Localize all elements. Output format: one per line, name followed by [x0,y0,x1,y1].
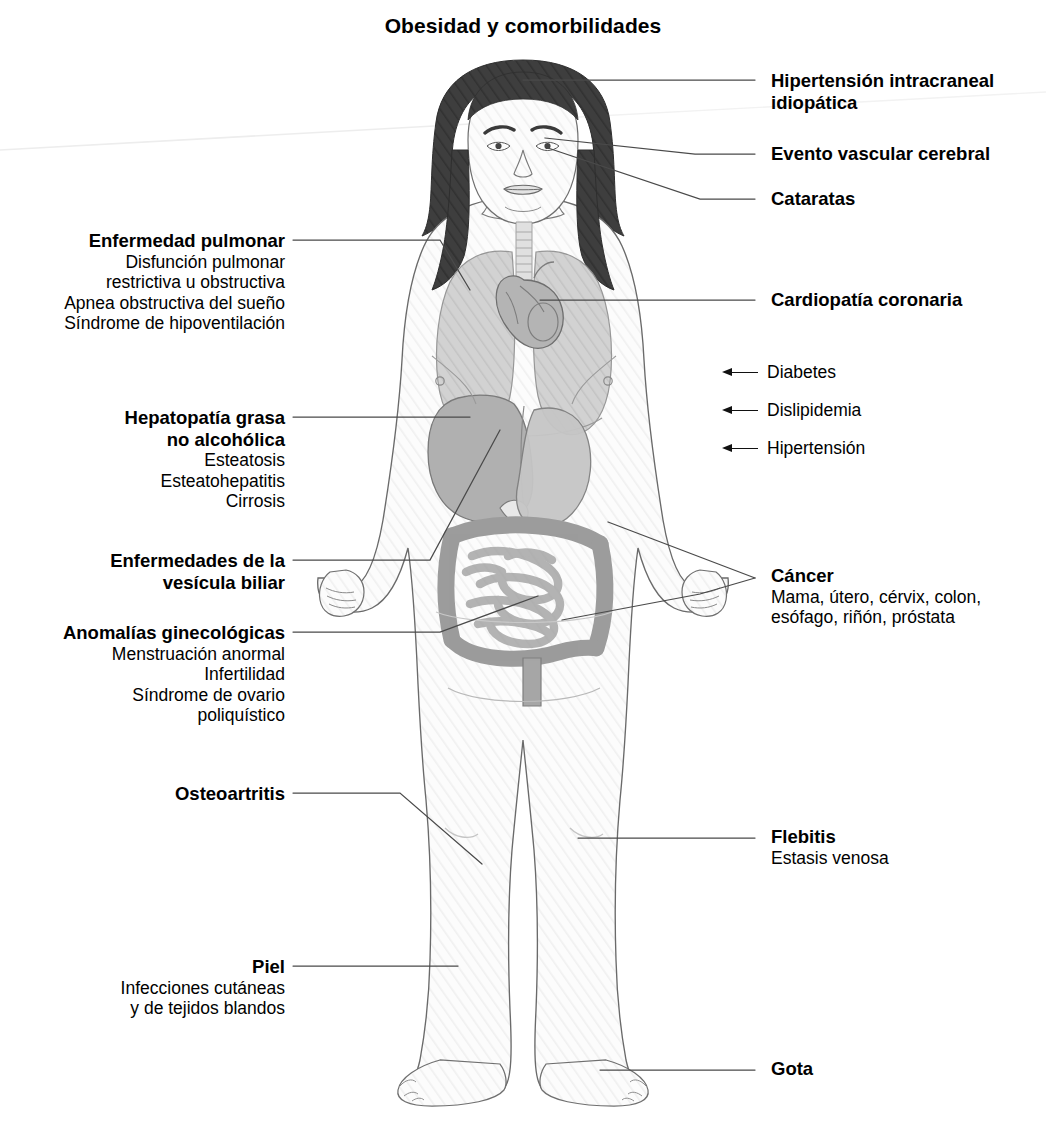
left-arrow-icon [722,443,758,455]
callout-enfermedades-vesicula-biliar[interactable]: Enfermedades de la vesícula biliar [110,550,285,593]
callout-sub-line: Esteatohepatitis [125,471,285,491]
callout-flebitis[interactable]: Flebitis Estasis venosa [771,826,889,868]
callout-diabetes[interactable]: Diabetes [722,362,836,383]
callout-heading-line: no alcohólica [125,429,285,451]
callout-heading-line: Piel [121,956,285,978]
callout-dislipidemia[interactable]: Dislipidemia [722,400,861,421]
callout-cardiopatia-coronaria[interactable]: Cardiopatía coronaria [771,289,962,311]
callout-heading-line: Cataratas [771,188,855,210]
rectum [523,658,541,706]
callout-heading-line: Cardiopatía coronaria [771,289,962,311]
callout-heading-line: Cáncer [771,565,981,587]
callout-sub-line: poliquístico [63,705,285,725]
callout-sub-line: Síndrome de ovario [63,685,285,705]
callout-heading-line: Enfermedad pulmonar [64,230,285,252]
callout-anomalias-ginecologicas[interactable]: Anomalías ginecológicas Menstruación ano… [63,622,285,726]
callout-heading-line: Anomalías ginecológicas [63,622,285,644]
left-arrow-icon [722,367,758,379]
callout-sub-line: Mama, útero, cérvix, colon, [771,587,981,607]
callout-sub-line: esófago, riñón, próstata [771,607,981,627]
callout-heading-line: Gota [771,1058,813,1080]
callout-sub-line: Cirrosis [125,491,285,511]
callout-osteoartritis[interactable]: Osteoartritis [175,783,285,805]
diagram-page: Obesidad y comorbilidades [0,0,1046,1123]
callout-evento-vascular-cerebral[interactable]: Evento vascular cerebral [771,143,990,165]
callout-sub-line: Menstruación anormal [63,644,285,664]
callout-label: Diabetes [767,362,836,383]
callout-heading-line: Enfermedades de la [110,550,285,572]
callout-sub-line: Infertilidad [63,664,285,684]
callout-heading-line: vesícula biliar [110,572,285,594]
foot-right [540,1060,648,1106]
callout-sub-line: Esteatosis [125,450,285,470]
callout-hipertension-intracraneal[interactable]: Hipertensión intracraneal idiopática [771,70,994,113]
foot-left [398,1060,506,1106]
callout-hipertension[interactable]: Hipertensión [722,438,865,459]
pupil-left [495,143,501,149]
callout-heading-line: Hipertensión intracraneal [771,70,994,92]
callout-gota[interactable]: Gota [771,1058,813,1080]
callout-enfermedad-pulmonar[interactable]: Enfermedad pulmonar Disfunción pulmonar … [64,230,285,334]
descending-colon [596,544,605,648]
callout-sub-line: Apnea obstructiva del sueño [64,293,285,313]
callout-sub-line: Síndrome de hipoventilación [64,313,285,333]
callout-label: Hipertensión [767,438,865,459]
callout-piel[interactable]: Piel Infecciones cutáneas y de tejidos b… [121,956,285,1019]
callout-cataratas[interactable]: Cataratas [771,188,855,210]
callout-sub-line: y de tejidos blandos [121,998,285,1018]
callout-heading-line: Evento vascular cerebral [771,143,990,165]
callout-label: Dislipidemia [767,400,861,421]
callout-sub-line: Infecciones cutáneas [121,978,285,998]
callout-sub-line: Estasis venosa [771,848,889,868]
callout-cancer[interactable]: Cáncer Mama, útero, cérvix, colon, esófa… [771,565,981,628]
callout-sub-line: Disfunción pulmonar [64,252,285,272]
left-arrow-icon [722,405,758,417]
callout-heading-line: Hepatopatía grasa [125,407,285,429]
callout-hepatopatia-grasa[interactable]: Hepatopatía grasa no alcohólica Esteatos… [125,407,285,512]
callout-heading-line: Osteoartritis [175,783,285,805]
callout-heading-line: idiopática [771,92,994,114]
scan-artifact-line [0,124,470,150]
hand-left [319,570,364,616]
callout-sub-line: restrictiva u obstructiva [64,272,285,292]
callout-heading-line: Flebitis [771,826,889,848]
ascending-colon [446,536,452,640]
